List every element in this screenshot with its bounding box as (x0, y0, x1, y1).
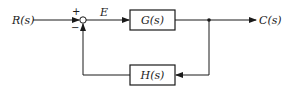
feedback-path-to-sum (83, 24, 130, 75)
block-diagram: R(s) + − E G(s) C(s) H(s) (0, 0, 294, 90)
output-label: C(s) (259, 14, 282, 27)
error-label: E (99, 6, 108, 19)
feedback-path-to-h (176, 20, 209, 75)
input-label: R(s) (11, 14, 35, 27)
forward-block-label: G(s) (141, 14, 164, 27)
plus-sign: + (72, 6, 80, 17)
feedback-block-label: H(s) (140, 69, 165, 82)
feedback-block: H(s) (130, 65, 175, 85)
forward-block: G(s) (130, 10, 175, 30)
minus-sign: − (71, 22, 79, 33)
summing-junction (80, 17, 86, 23)
